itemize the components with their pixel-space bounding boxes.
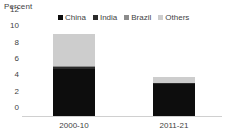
bar-2000-10[interactable] [53,34,95,116]
y-axis-tick-label: 0 [15,103,19,112]
bar-2011-21[interactable] [153,77,195,116]
y-axis-tick-label: 10 [10,21,19,30]
y-axis-tick-label: 2 [15,86,19,95]
stacked-bar-chart: Percent ChinaIndiaBrazilOthers 024681012… [0,0,226,135]
y-axis-tick-label: 12 [10,5,19,14]
y-axis-tick-label: 8 [15,37,19,46]
bar-segment-china [53,69,95,116]
x-axis-tick-label: 2011-21 [144,121,204,130]
x-axis-tick-label: 2000-10 [44,121,104,130]
plot-area: 0246810122000-102011-21 [22,18,222,117]
y-axis-tick-label: 6 [15,54,19,63]
bar-segment-china [153,84,195,116]
bar-segment-others [53,34,95,67]
y-axis-tick-label: 4 [15,70,19,79]
x-axis-baseline [22,116,222,117]
